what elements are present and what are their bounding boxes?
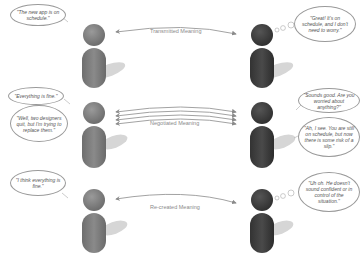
left-figure-body bbox=[82, 126, 106, 168]
speech-bubble-left: "The new app is on schedule." bbox=[10, 4, 66, 26]
left-figure-body bbox=[82, 213, 106, 253]
speech-bubble-left: "I think everything is fine." bbox=[10, 170, 66, 196]
thought-dot bbox=[281, 26, 286, 31]
thought-dot bbox=[275, 28, 279, 32]
right-figure-head bbox=[251, 189, 273, 211]
right-figure-head bbox=[251, 102, 273, 124]
speech-bubble-right: "Sounds good. Are you worried about anyt… bbox=[298, 88, 360, 113]
right-figure-head bbox=[251, 24, 273, 46]
left-figure-head bbox=[83, 189, 105, 211]
right-figure-body bbox=[250, 213, 274, 253]
left-figure-head bbox=[83, 24, 105, 46]
thought-dot bbox=[281, 194, 286, 199]
thought-dot bbox=[288, 190, 294, 196]
thought-dot bbox=[275, 196, 279, 200]
row-recreated bbox=[62, 189, 295, 253]
right-figure-body bbox=[250, 48, 274, 88]
speech-bubble-right: "Ah, I see. You are still on schedule, b… bbox=[298, 117, 360, 157]
arrow bbox=[116, 194, 236, 203]
left-figure-body bbox=[82, 48, 106, 88]
right-figure-body bbox=[250, 126, 274, 168]
thought-bubble-right: "Uh oh. He doesn't sound confident or in… bbox=[298, 172, 360, 212]
transmitted-meaning-label: Transmitted Meaning bbox=[150, 28, 201, 34]
left-figure-head bbox=[83, 102, 105, 124]
row-negotiated bbox=[64, 99, 302, 168]
speech-tail bbox=[64, 99, 70, 104]
speech-bubble-left: "Well, two designers quit, but I'm tryin… bbox=[10, 105, 68, 142]
speech-bubble-left: "Everything is fine." bbox=[8, 87, 64, 105]
speech-tail bbox=[62, 193, 68, 198]
negotiated-meaning-label: Negotiated Meaning bbox=[150, 120, 199, 126]
recreated-meaning-label: Re-created Meaning bbox=[150, 204, 200, 210]
thought-bubble-right: "Great! It's on schedule, and I don't ne… bbox=[294, 6, 356, 42]
